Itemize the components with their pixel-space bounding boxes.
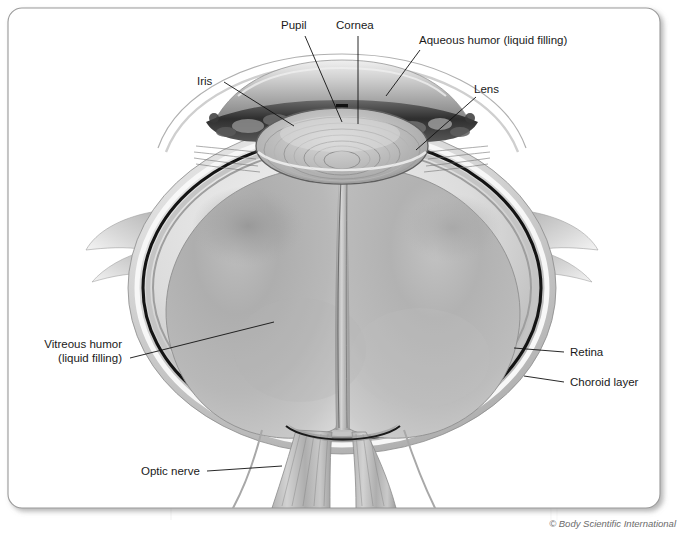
vitreous-humor-body bbox=[166, 167, 520, 438]
eye-diagram-canvas: Pupil Cornea Aqueous humor (liquid filli… bbox=[0, 0, 684, 534]
vitreous-shading-right bbox=[402, 194, 502, 262]
label-cornea: Cornea bbox=[336, 19, 374, 31]
vitreous-shading-left bbox=[192, 186, 304, 266]
label-pupil: Pupil bbox=[281, 19, 307, 31]
label-optic-nerve: Optic nerve bbox=[141, 465, 200, 477]
label-aqueous-humor: Aqueous humor (liquid filling) bbox=[419, 34, 567, 46]
eye-anatomy-figure: Pupil Cornea Aqueous humor (liquid filli… bbox=[0, 0, 684, 534]
copyright-credit: © Body Scientific International bbox=[549, 518, 677, 529]
vitreous-shading-lower-right bbox=[350, 308, 490, 408]
label-vitreous-humor: Vitreous humor bbox=[44, 338, 122, 350]
label-choroid-layer: Choroid layer bbox=[570, 376, 639, 388]
label-iris: Iris bbox=[197, 75, 213, 87]
label-retina: Retina bbox=[570, 346, 604, 358]
label-vitreous-humor-sub: (liquid filling) bbox=[58, 352, 122, 364]
label-lens: Lens bbox=[474, 83, 499, 95]
